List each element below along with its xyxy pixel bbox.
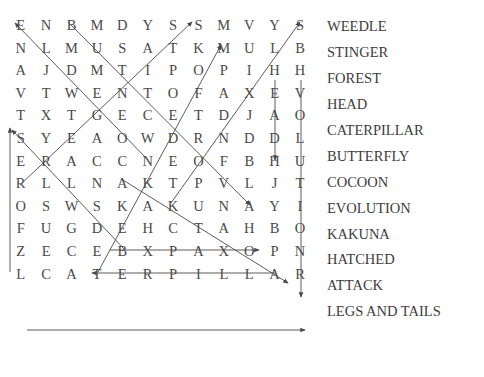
grid-cell[interactable]: R <box>287 263 312 286</box>
grid-cell[interactable]: X <box>237 82 262 105</box>
grid-cell[interactable]: A <box>211 217 236 240</box>
grid-cell[interactable]: L <box>211 263 236 286</box>
grid-cell[interactable]: U <box>84 37 109 60</box>
grid-cell[interactable]: G <box>84 104 109 127</box>
grid-cell[interactable]: C <box>160 217 185 240</box>
grid-cell[interactable]: I <box>186 263 211 286</box>
grid-cell[interactable]: X <box>211 240 236 263</box>
grid-cell[interactable]: A <box>84 127 109 150</box>
grid-cell[interactable]: A <box>135 195 160 218</box>
grid-cell[interactable]: R <box>186 127 211 150</box>
grid-cell[interactable]: O <box>287 217 312 240</box>
grid-cell[interactable]: O <box>110 127 135 150</box>
grid-cell[interactable]: Y <box>262 14 287 37</box>
grid-cell[interactable]: Y <box>33 127 58 150</box>
grid-cell[interactable]: D <box>160 127 185 150</box>
grid-cell[interactable]: D <box>110 14 135 37</box>
grid-cell[interactable]: A <box>186 240 211 263</box>
grid-cell[interactable]: L <box>59 172 84 195</box>
grid-cell[interactable]: A <box>262 263 287 286</box>
grid-cell[interactable]: H <box>287 59 312 82</box>
grid-cell[interactable]: S <box>287 14 312 37</box>
grid-cell[interactable]: T <box>160 172 185 195</box>
word-list-item[interactable]: HEAD <box>327 92 484 118</box>
word-list-item[interactable]: KAKUNA <box>327 221 484 247</box>
grid-cell[interactable]: E <box>33 240 58 263</box>
grid-cell[interactable]: M <box>211 14 236 37</box>
grid-cell[interactable]: O <box>287 104 312 127</box>
grid-cell[interactable]: F <box>211 150 236 173</box>
grid-cell[interactable]: V <box>8 82 33 105</box>
grid-cell[interactable]: P <box>160 240 185 263</box>
grid-cell[interactable]: N <box>84 172 109 195</box>
grid-cell[interactable]: U <box>237 37 262 60</box>
grid-cell[interactable]: K <box>186 37 211 60</box>
grid-cell[interactable]: E <box>110 104 135 127</box>
grid-cell[interactable]: J <box>237 104 262 127</box>
grid-cell[interactable]: K <box>160 195 185 218</box>
grid-cell[interactable]: U <box>33 217 58 240</box>
grid-cell[interactable]: L <box>237 263 262 286</box>
word-list-item[interactable]: STINGER <box>327 40 484 66</box>
grid-cell[interactable]: A <box>237 195 262 218</box>
grid-cell[interactable]: P <box>211 59 236 82</box>
word-list-item[interactable]: CATERPILLAR <box>327 118 484 144</box>
grid-cell[interactable]: A <box>135 37 160 60</box>
grid-cell[interactable]: R <box>33 150 58 173</box>
grid-cell[interactable]: H <box>237 217 262 240</box>
grid-cell[interactable]: B <box>59 14 84 37</box>
grid-cell[interactable]: V <box>237 14 262 37</box>
grid-cell[interactable]: O <box>237 240 262 263</box>
grid-cell[interactable]: O <box>8 195 33 218</box>
grid-cell[interactable]: R <box>135 263 160 286</box>
grid-cell[interactable]: E <box>8 14 33 37</box>
grid-cell[interactable]: K <box>135 172 160 195</box>
word-list-item[interactable]: COCOON <box>327 169 484 195</box>
grid-cell[interactable]: X <box>135 240 160 263</box>
grid-cell[interactable]: E <box>59 127 84 150</box>
grid-cell[interactable]: I <box>135 59 160 82</box>
grid-cell[interactable]: T <box>287 172 312 195</box>
grid-cell[interactable]: A <box>59 263 84 286</box>
grid-cell[interactable]: A <box>59 150 84 173</box>
grid-cell[interactable]: W <box>135 127 160 150</box>
grid-cell[interactable]: S <box>186 14 211 37</box>
grid-cell[interactable]: N <box>33 14 58 37</box>
grid-cell[interactable]: H <box>262 59 287 82</box>
grid-cell[interactable]: T <box>186 217 211 240</box>
grid-cell[interactable]: A <box>8 59 33 82</box>
grid-cell[interactable]: E <box>110 263 135 286</box>
grid-cell[interactable]: D <box>262 127 287 150</box>
grid-cell[interactable]: D <box>237 127 262 150</box>
grid-cell[interactable]: N <box>110 82 135 105</box>
grid-cell[interactable]: I <box>237 59 262 82</box>
grid-cell[interactable]: P <box>160 263 185 286</box>
grid-cell[interactable]: V <box>287 82 312 105</box>
grid-cell[interactable]: B <box>262 217 287 240</box>
grid-cell[interactable]: W <box>59 82 84 105</box>
word-list-item[interactable]: LEGS AND TAILS <box>327 299 484 325</box>
grid-cell[interactable]: E <box>160 104 185 127</box>
word-list-item[interactable]: HATCHED <box>327 247 484 273</box>
grid-cell[interactable]: H <box>135 217 160 240</box>
word-list-item[interactable]: ATTACK <box>327 273 484 299</box>
grid-cell[interactable]: M <box>84 59 109 82</box>
grid-cell[interactable]: E <box>262 82 287 105</box>
grid-cell[interactable]: C <box>84 150 109 173</box>
grid-cell[interactable]: O <box>186 150 211 173</box>
grid-cell[interactable]: F <box>8 217 33 240</box>
grid-cell[interactable]: U <box>287 150 312 173</box>
grid-cell[interactable]: E <box>84 82 109 105</box>
word-list-item[interactable]: BUTTERFLY <box>327 143 484 169</box>
grid-cell[interactable]: E <box>160 150 185 173</box>
grid-cell[interactable]: Y <box>135 14 160 37</box>
grid-cell[interactable]: E <box>110 217 135 240</box>
grid-cell[interactable]: S <box>84 195 109 218</box>
grid-cell[interactable]: G <box>59 217 84 240</box>
grid-cell[interactable]: A <box>110 172 135 195</box>
grid-cell[interactable]: O <box>160 82 185 105</box>
grid-cell[interactable]: P <box>186 172 211 195</box>
grid-cell[interactable]: T <box>160 37 185 60</box>
grid-cell[interactable]: B <box>287 37 312 60</box>
grid-cell[interactable]: P <box>262 240 287 263</box>
